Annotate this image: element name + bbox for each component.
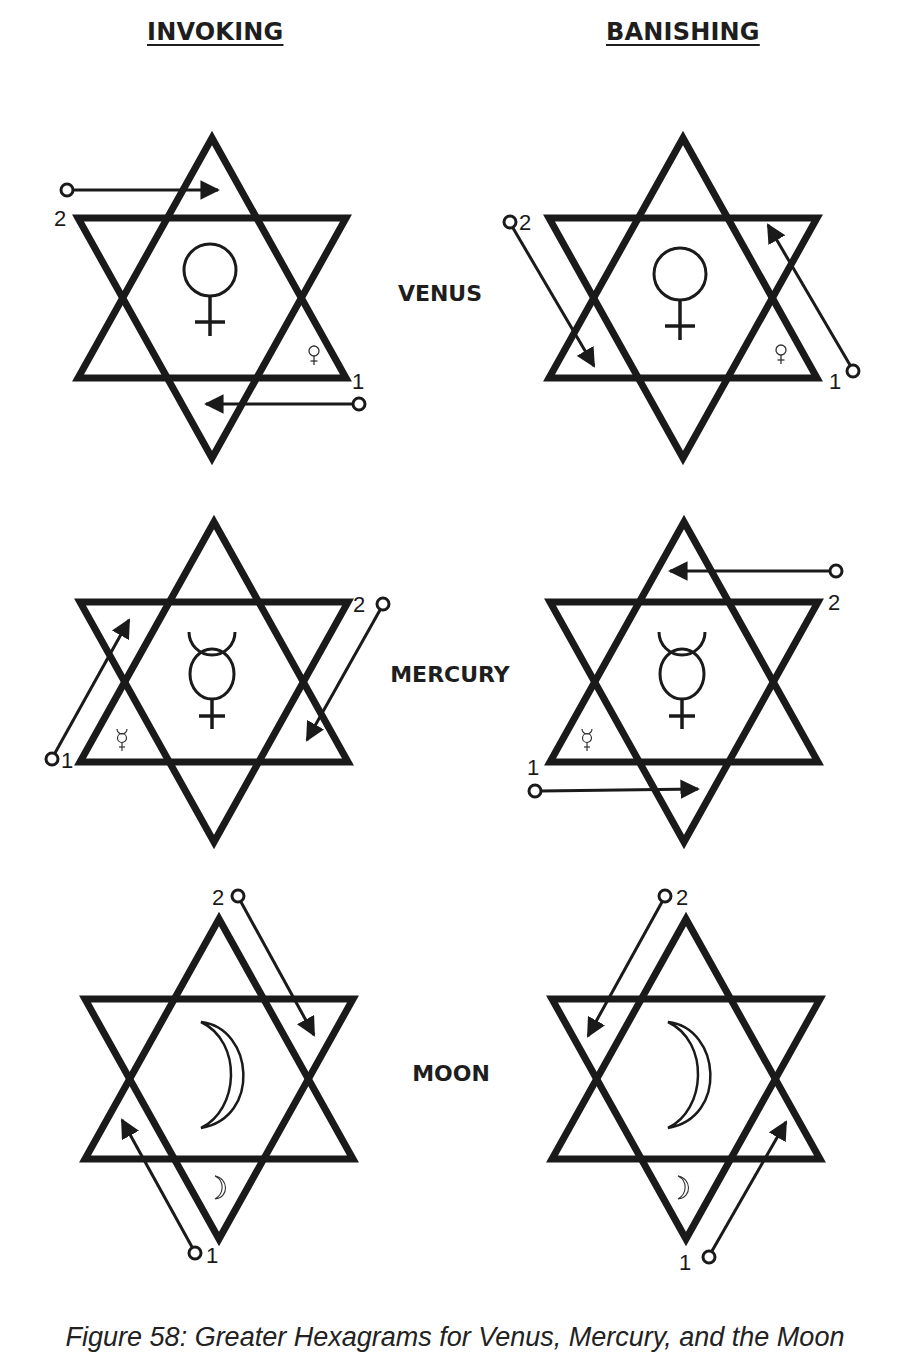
moon-invoking-label-2: 2	[212, 885, 224, 910]
mercury-invoking-label-2: 2	[353, 592, 365, 617]
venus-small-icon	[776, 345, 786, 364]
mercury-banishing-label-1: 1	[527, 755, 539, 780]
venus-invoking-hexagram: 2 1	[54, 138, 365, 458]
moon-invoking-label-1: 1	[206, 1243, 218, 1268]
venus-small-icon	[309, 346, 319, 365]
venus-invoking-label-2: 2	[54, 206, 66, 231]
mercury-banishing-label-2: 2	[828, 590, 840, 615]
venus-symbol-icon	[184, 244, 236, 336]
moon-banishing-label-2: 2	[676, 885, 688, 910]
figure-caption: Figure 58: Greater Hexagrams for Venus, …	[0, 1322, 910, 1353]
moon-symbol-icon	[668, 1022, 710, 1128]
moon-banishing-label-1: 1	[679, 1250, 691, 1275]
mercury-small-icon	[582, 729, 592, 751]
moon-small-icon	[678, 1176, 689, 1199]
mercury-banishing-hexagram: 2 1	[527, 522, 842, 842]
mercury-symbol-icon	[189, 632, 235, 729]
moon-symbol-icon	[201, 1022, 243, 1128]
venus-invoking-label-1: 1	[352, 369, 364, 394]
moon-banishing-hexagram: 2 1	[552, 885, 820, 1275]
mercury-small-icon	[117, 729, 127, 751]
moon-small-icon	[215, 1176, 226, 1199]
venus-banishing-label-1: 1	[829, 369, 841, 394]
mercury-symbol-icon	[659, 632, 705, 729]
venus-banishing-label-2: 2	[519, 210, 531, 235]
moon-invoking-hexagram: 2 1	[85, 885, 353, 1268]
mercury-invoking-hexagram: 1 2	[46, 522, 389, 842]
venus-symbol-icon	[654, 248, 706, 340]
mercury-invoking-label-1: 1	[61, 748, 73, 773]
venus-banishing-hexagram: 2 1	[504, 138, 859, 458]
